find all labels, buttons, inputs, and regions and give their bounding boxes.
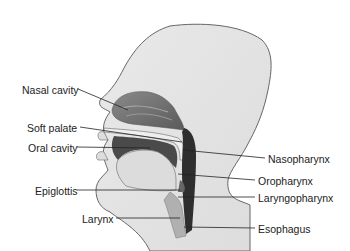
label-nasal-cavity: Nasal cavity: [22, 84, 79, 96]
label-larynx: Larynx: [82, 213, 114, 225]
label-soft-palate: Soft palate: [27, 122, 77, 134]
label-epiglottis: Epiglottis: [35, 185, 78, 197]
label-esophagus: Esophagus: [258, 223, 311, 235]
label-oral-cavity: Oral cavity: [28, 142, 78, 154]
label-oropharynx: Oropharynx: [258, 175, 313, 187]
label-nasopharynx: Nasopharynx: [268, 153, 330, 165]
label-laryngopharynx: Laryngopharynx: [258, 192, 333, 204]
